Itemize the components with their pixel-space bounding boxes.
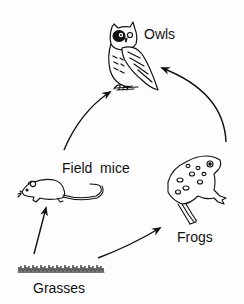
arrow-frogs-to-owls [162,68,226,142]
grasses-label: Grasses [33,281,85,295]
frog-icon [168,156,226,224]
grass-icon [18,265,104,273]
frogs-label: Frogs [177,230,213,244]
diagram-graphics [0,0,244,304]
arrow-mice-to-owls [64,92,110,150]
arrow-grasses-to-mice [34,208,46,254]
mouse-icon [18,179,103,202]
arrow-grasses-to-frogs [98,228,160,258]
food-chain-diagram: Owls Field mice Frogs Grasses [0,0,244,304]
owls-label: Owls [144,27,175,41]
field-mice-label: Field mice [62,161,130,175]
